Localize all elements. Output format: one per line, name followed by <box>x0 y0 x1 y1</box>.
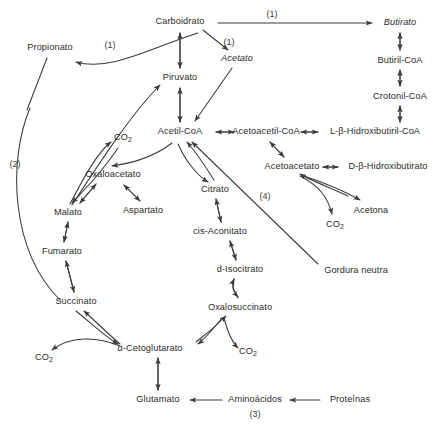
node-acetoacetato: Acetoacetato <box>265 162 320 171</box>
label-tag-1-butirato: (1) <box>267 10 278 19</box>
node-acetil-coa: Acetil-CoA <box>158 127 202 136</box>
node-co2-oxalosuccinato: CO2 <box>239 347 257 357</box>
node-co2-oxaloacetato: CO2 <box>114 133 132 143</box>
node-cis-aconitato: cis-Aconitato <box>193 227 247 236</box>
node-aminoacidos: Aminoácidos <box>228 395 282 404</box>
node-acetato: Acetato <box>221 54 253 63</box>
node-propionato: Propionato <box>27 43 72 52</box>
pathway-diagram: CarboidratoButiratoPropionatoAcetatoButi… <box>0 0 445 430</box>
label-tag-1-acetato: (1) <box>224 38 235 47</box>
label-tag-4-gordura: (4) <box>260 192 271 201</box>
node-alfa-cetoglutarato: α-Cetoglutarato <box>117 344 182 353</box>
node-d-isocitrato: d-Isocitrato <box>217 265 264 274</box>
node-oxaloacetato: Oxaloacetato <box>85 170 140 179</box>
node-butirato: Butirato <box>384 18 416 27</box>
node-proteinas: Proteínas <box>330 395 370 404</box>
node-co2-acetona: CO2 <box>326 220 344 230</box>
node-aspartato: Aspartato <box>123 206 163 215</box>
node-malato: Malato <box>54 208 82 217</box>
node-succinato: Succinato <box>55 297 96 306</box>
node-piruvato: Piruvato <box>163 73 198 82</box>
node-glutamato: Glutamato <box>136 395 179 404</box>
node-citrato: Citrato <box>201 185 229 194</box>
node-acetona: Acetona <box>354 206 388 215</box>
node-oxalosuccinato: Oxalosuccinato <box>208 303 272 312</box>
node-carboidrato: Carboidrato <box>155 17 204 26</box>
node-butiril-coa: Butiril-CoA <box>377 56 422 65</box>
node-co2-succinato: CO2 <box>35 353 53 363</box>
label-tag-3-aminoacidos: (3) <box>250 410 261 419</box>
node-crotonil-coa: Crotonil-CoA <box>373 92 427 101</box>
node-d-b-hidroxibutirato: D-β-Hidroxibutirato <box>348 162 427 171</box>
node-acetoacetil-coa: Acetoacetil-CoA <box>232 127 299 136</box>
label-tag-2-succinato: (2) <box>10 160 21 169</box>
node-fumarato: Fumarato <box>42 247 82 256</box>
label-tag-1-propionato: (1) <box>105 41 116 50</box>
node-gordura-neutra: Gordura neutra <box>324 266 388 275</box>
node-l-b-hidroxibutiril-coa: L-β-Hidroxibutiril-CoA <box>330 127 420 136</box>
